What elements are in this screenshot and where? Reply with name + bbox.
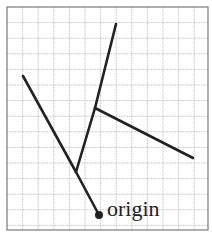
segment-left-branch: [23, 76, 76, 172]
branch-diagram: origin: [0, 0, 212, 244]
segment-trunk-middle: [76, 108, 95, 172]
origin-point: [95, 211, 103, 219]
branch-segments: [23, 24, 193, 215]
origin-label: origin: [107, 196, 160, 221]
segment-trunk-upper: [95, 24, 116, 108]
segment-right-branch: [95, 108, 193, 158]
